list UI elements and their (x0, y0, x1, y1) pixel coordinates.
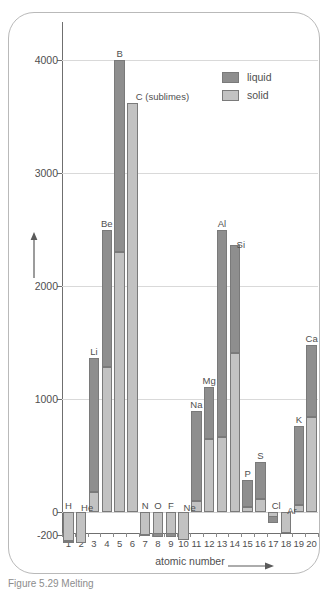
bar-solid-P (242, 507, 252, 512)
x-tick-mark-4 (100, 533, 101, 537)
bar-label-Al: Al (218, 219, 226, 229)
x-tick-label-15: 15 (242, 539, 253, 549)
x-tick-label-3: 3 (91, 539, 96, 549)
chart-plot-area: 40003000200010000-200 123456789101112131… (0, 0, 330, 591)
bar-label-P: P (244, 469, 250, 479)
bar-label-Ne: Ne (184, 503, 196, 513)
bar-label-Li: Li (90, 347, 97, 357)
bar-liquid-Na (191, 411, 201, 500)
bar-solid-Ca (306, 417, 316, 512)
gridline-2000 (62, 286, 318, 287)
x-tick-mark-16 (254, 533, 255, 537)
figure-caption: Figure 5.29 Melting (8, 578, 322, 591)
solid-swatch (222, 90, 239, 101)
x-tick-label-11: 11 (191, 539, 201, 549)
y-tick-label-1000: 1000 (35, 394, 58, 405)
bar-label-Cl: Cl (272, 501, 281, 511)
bar-liquid-B (114, 60, 124, 252)
bar-label-N: N (142, 501, 149, 511)
bar-label-O: O (154, 501, 161, 511)
x-tick-label-14: 14 (230, 539, 241, 549)
bar-solid-B (114, 252, 124, 512)
y-tick-label-3000: 3000 (35, 168, 58, 179)
x-tick-mark-13 (216, 533, 217, 537)
legend-item-liquid: liquid (222, 72, 272, 83)
bar-solid-Mg (204, 439, 214, 512)
x-tick-mark-12 (203, 533, 204, 537)
bar-label-He: He (81, 503, 93, 513)
y-axis-line (62, 22, 63, 534)
x-tick-mark-20 (305, 533, 306, 537)
legend-item-solid: solid (222, 90, 272, 101)
bar-liquid-Mg (204, 387, 214, 439)
bar-solid-S (255, 499, 265, 512)
x-tick-mark-19 (292, 533, 293, 537)
x-axis-title: atomic number (62, 555, 318, 567)
bar-solid-C (127, 103, 137, 512)
bar-label-F: F (168, 501, 174, 511)
bar-liquid-N (140, 534, 150, 536)
y-tick-label--200: -200 (37, 530, 58, 541)
bar-label-C: C (sublimes) (136, 92, 189, 102)
bar-solid-Be (102, 367, 112, 512)
y-tick-label-2000: 2000 (35, 281, 58, 292)
x-tick-label-19: 19 (294, 539, 305, 549)
bar-liquid-P (242, 480, 252, 507)
x-tick-label-6: 6 (130, 539, 135, 549)
bar-solid-He (76, 512, 86, 543)
bar-liquid-O (153, 533, 163, 537)
bar-solid-Al (217, 437, 227, 512)
bar-label-Mg: Mg (203, 376, 216, 386)
bar-label-K: K (296, 415, 302, 425)
bar-label-Na: Na (190, 400, 202, 410)
bar-label-Ca: Ca (306, 334, 318, 344)
x-tick-mark-3 (88, 533, 89, 537)
bar-liquid-H (63, 541, 73, 543)
x-tick-mark-17 (267, 533, 268, 537)
bar-label-S: S (257, 451, 263, 461)
bar-liquid-Si (230, 245, 240, 352)
gridline-4000 (62, 60, 318, 61)
x-tick-mark-6 (126, 533, 127, 537)
x-tick-mark-11 (190, 533, 191, 537)
bar-liquid-Cl (268, 516, 278, 523)
bar-solid-H (63, 512, 73, 541)
y-tick-label-4000: 4000 (35, 55, 58, 66)
bar-liquid-K (294, 426, 304, 505)
x-tick-label-18: 18 (281, 539, 292, 549)
legend-label-solid: solid (247, 90, 269, 101)
y-tick-label-0: 0 (52, 507, 58, 518)
x-tick-mark-5 (113, 533, 114, 537)
bar-liquid-Li (89, 358, 99, 491)
bar-solid-N (140, 512, 150, 536)
bar-label-B: B (116, 49, 122, 59)
x-axis-arrow-icon (228, 557, 274, 567)
gridline-3000 (62, 173, 318, 174)
x-tick-label-5: 5 (117, 539, 122, 549)
liquid-swatch (222, 72, 239, 83)
bar-liquid-Ca (306, 345, 316, 417)
bar-label-Ar: Ar (287, 506, 297, 516)
x-tick-label-12: 12 (204, 539, 215, 549)
legend-label-liquid: liquid (247, 72, 272, 83)
x-tick-label-8: 8 (155, 539, 160, 549)
x-tick-label-10: 10 (178, 539, 189, 549)
x-tick-mark-14 (228, 533, 229, 537)
x-tick-mark-end (318, 533, 319, 537)
x-tick-label-20: 20 (306, 539, 317, 549)
x-tick-label-13: 13 (217, 539, 228, 549)
bar-liquid-Be (102, 230, 112, 368)
x-tick-label-9: 9 (168, 539, 173, 549)
y-axis-arrow-icon (29, 232, 39, 278)
bar-label-Si: Si (237, 240, 245, 250)
bar-label-H: H (65, 501, 72, 511)
x-tick-label-4: 4 (104, 539, 109, 549)
bar-solid-Ne (178, 512, 188, 540)
bar-liquid-F (166, 533, 176, 537)
bar-liquid-Al (217, 230, 227, 438)
x-tick-label-17: 17 (268, 539, 279, 549)
bar-solid-Si (230, 353, 240, 512)
bar-label-Be: Be (101, 219, 113, 229)
x-tick-label-7: 7 (143, 539, 148, 549)
chart-legend: liquidsolid (222, 72, 272, 108)
